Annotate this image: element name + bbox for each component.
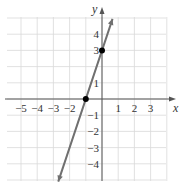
y-tick-label: 3: [94, 44, 100, 56]
x-tick-label: 2: [132, 102, 138, 114]
x-tick-label: 1: [115, 102, 121, 114]
y-tick-label: −2: [87, 125, 99, 137]
y-tick-label: 1: [94, 77, 100, 89]
plotted-point: [83, 96, 89, 102]
y-axis-label: y: [91, 2, 98, 16]
x-tick-label: −3: [48, 102, 60, 114]
y-tick-label: −1: [87, 109, 99, 121]
y-axis-arrow-icon: [100, 7, 105, 14]
y-tick-label: −3: [87, 142, 99, 154]
y-tick-label: −4: [87, 158, 99, 170]
line-arrow-top-icon: [108, 19, 113, 26]
x-axis-label: x: [172, 101, 179, 115]
plotted-point: [99, 47, 105, 53]
x-tick-label: −5: [15, 102, 27, 114]
y-tick-label: 4: [94, 28, 100, 40]
coordinate-plane: xy−5−4−3−2123431−1−2−3−4: [0, 0, 183, 191]
line-arrow-bottom-icon: [58, 175, 63, 182]
x-tick-label: −2: [64, 102, 76, 114]
x-tick-label: 3: [148, 102, 154, 114]
x-tick-label: −4: [31, 102, 43, 114]
